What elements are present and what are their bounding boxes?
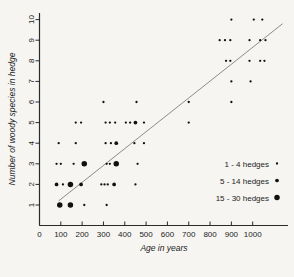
x-tick-label: 800 [203, 230, 217, 239]
data-point [259, 39, 261, 41]
data-point [125, 121, 127, 123]
data-point [110, 142, 112, 144]
x-tick-label: 700 [182, 230, 196, 239]
data-point [136, 163, 138, 165]
data-point [68, 182, 74, 188]
data-point [249, 80, 251, 82]
data-point [104, 142, 106, 144]
y-tick-label: 1 [27, 202, 36, 207]
y-tick-label: 9 [27, 37, 36, 42]
data-point [224, 39, 226, 41]
legend-dot-medium [275, 179, 279, 183]
data-point [264, 39, 266, 41]
data-point [229, 39, 231, 41]
x-tick-label: 600 [161, 230, 175, 239]
data-point [188, 121, 190, 123]
data-point [219, 39, 221, 41]
data-point [109, 121, 111, 123]
data-point [225, 60, 227, 62]
data-point [75, 142, 77, 144]
data-point [114, 121, 116, 123]
data-point [75, 121, 77, 123]
x-tick-label: 200 [75, 230, 89, 239]
data-point [248, 39, 250, 41]
data-point [104, 121, 106, 123]
data-point [55, 163, 57, 165]
data-point [112, 183, 116, 187]
data-point [82, 161, 88, 167]
y-tick-label: 2 [27, 182, 36, 187]
x-tick-label: 400 [118, 230, 132, 239]
data-point [259, 60, 261, 62]
data-point [143, 121, 145, 123]
y-tick-label: 7 [27, 79, 36, 84]
data-point [72, 163, 74, 165]
data-point [114, 141, 118, 145]
data-point [248, 60, 250, 62]
x-tick-label: 1000 [244, 230, 262, 239]
data-point [114, 161, 120, 167]
data-point [83, 204, 85, 206]
data-point [263, 60, 265, 62]
y-tick-label: 3 [27, 161, 36, 166]
data-point [261, 18, 263, 20]
x-tick-label: 0 [37, 230, 42, 239]
x-tick-label: 300 [97, 230, 111, 239]
data-point [135, 101, 137, 103]
data-point [143, 142, 145, 144]
data-point [253, 18, 255, 20]
data-point [188, 101, 190, 103]
legend-dot-large [274, 195, 280, 201]
data-point [134, 183, 136, 185]
data-point [58, 142, 60, 144]
hedge-species-age-figure: 0100200300400500600700800900100012345678… [0, 0, 294, 277]
data-point [107, 183, 109, 185]
x-axis-title: Age in years [139, 243, 188, 253]
data-point [79, 183, 83, 187]
data-point [134, 121, 138, 125]
data-point [103, 183, 105, 185]
y-tick-label: 6 [27, 99, 36, 104]
data-point [133, 142, 135, 144]
y-tick-label: 8 [27, 58, 36, 63]
data-point [230, 80, 232, 82]
data-point [106, 204, 108, 206]
data-point [230, 18, 232, 20]
scatter-plot: 0100200300400500600700800900100012345678… [0, 0, 294, 277]
data-point [129, 121, 131, 123]
y-tick-label: 4 [27, 140, 36, 145]
data-point [229, 60, 231, 62]
y-axis-title: Number of woody species in hedge [7, 52, 17, 185]
legend-dot-small [276, 162, 278, 164]
x-tick-label: 900 [225, 230, 239, 239]
legend-label-small: 1 - 4 hedges [225, 160, 269, 169]
data-point [230, 101, 232, 103]
y-tick-label: 10 [27, 15, 36, 24]
x-tick-label: 500 [139, 230, 153, 239]
data-point [55, 183, 59, 187]
trend-line [59, 24, 283, 201]
data-point [100, 183, 102, 185]
data-point [106, 163, 108, 165]
data-point [62, 183, 64, 185]
y-tick-label: 5 [27, 120, 36, 125]
data-point [109, 163, 111, 165]
data-point [102, 101, 104, 103]
data-point [68, 202, 74, 208]
data-point [80, 121, 82, 123]
x-tick-label: 100 [54, 230, 68, 239]
legend-label-large: 15 - 30 hedges [216, 194, 269, 203]
legend-label-medium: 5 - 14 hedges [220, 177, 269, 186]
data-point [57, 202, 63, 208]
data-point [60, 163, 62, 165]
